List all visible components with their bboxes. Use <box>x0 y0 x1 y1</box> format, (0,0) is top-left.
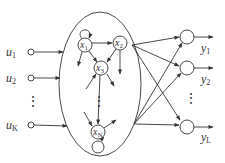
input-arrow <box>34 125 67 126</box>
input-node-circle <box>28 122 34 128</box>
output-ellipsis: ⋮ <box>184 91 198 106</box>
readout-edges <box>132 37 182 125</box>
output-node-circle <box>180 61 194 75</box>
reservoir-node-xN: xN <box>91 125 105 139</box>
input-node-circle <box>28 49 34 55</box>
output-node-circle <box>180 30 194 44</box>
reservoir-node-x1: x1 <box>78 38 92 52</box>
reservoir-network-diagram: u1 u2 ⋮ uK ⋮ x1 x2 <box>0 0 225 163</box>
input-u2: u2 <box>6 71 60 86</box>
output-node-circle <box>180 120 194 134</box>
svg-text:uK: uK <box>6 118 18 133</box>
svg-text:y2: y2 <box>200 72 210 87</box>
input-uK: uK <box>6 118 67 133</box>
output-y2: y2 <box>180 61 213 87</box>
output-y1: y1 <box>180 30 213 56</box>
svg-text:u1: u1 <box>6 45 16 60</box>
edge-x3-out <box>107 74 114 86</box>
xN-self-loop <box>92 141 104 153</box>
svg-text:yL: yL <box>200 130 211 145</box>
reservoir-node-x2: x2 <box>113 36 127 50</box>
input-node-circle <box>28 75 34 81</box>
edge-x1-out <box>78 52 82 66</box>
edge-xN-out <box>104 120 116 128</box>
input-u1: u1 <box>6 45 63 60</box>
svg-text:u2: u2 <box>6 71 16 86</box>
edge-in-xN <box>84 112 92 126</box>
svg-text:y1: y1 <box>200 41 210 56</box>
edge-in-x3 <box>86 74 96 89</box>
edge-x2-x3 <box>107 49 116 62</box>
output-yL: yL <box>180 120 213 145</box>
reservoir-ellipsis: ⋮ <box>92 94 106 109</box>
reservoir-node-x3: x3 <box>94 61 108 75</box>
input-ellipsis: ⋮ <box>26 94 40 109</box>
edge-x1-x3 <box>89 51 97 62</box>
